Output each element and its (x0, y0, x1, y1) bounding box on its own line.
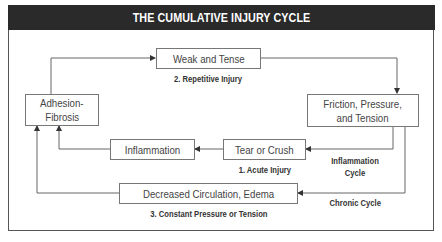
label-repetitive-injury: 2. Repetitive Injury (156, 73, 261, 85)
node-adhesion-line2: Fibrosis (45, 110, 79, 124)
label-inflammation-cycle-line1: Inflammation (331, 155, 379, 167)
label-constant-pressure-text: 3. Constant Pressure or Tension (150, 208, 267, 220)
label-chronic-cycle-text: Chronic Cycle (329, 197, 380, 209)
node-inflammation: Inflammation (110, 139, 195, 160)
label-acute-injury: 1. Acute Injury (223, 164, 306, 176)
label-constant-pressure: 3. Constant Pressure or Tension (119, 208, 298, 220)
label-repetitive-injury-text: 2. Repetitive Injury (174, 73, 242, 85)
node-friction-line2: and Tension (337, 111, 389, 125)
node-weak-and-tense: Weak and Tense (156, 48, 261, 69)
label-inflammation-cycle: Inflammation Cycle (320, 155, 390, 179)
node-adhesion-fibrosis: Adhesion- Fibrosis (25, 94, 99, 126)
label-inflammation-cycle-line2: Cycle (345, 167, 365, 179)
node-weak-and-tense-label: Weak and Tense (173, 52, 245, 66)
node-tear-or-crush-label: Tear or Crush (235, 143, 294, 157)
node-decreased-circulation: Decreased Circulation, Edema (119, 183, 298, 204)
node-friction-pressure-tension: Friction, Pressure, and Tension (307, 94, 419, 127)
node-decreased-circulation-label: Decreased Circulation, Edema (143, 187, 274, 201)
label-acute-injury-text: 1. Acute Injury (238, 164, 290, 176)
node-inflammation-label: Inflammation (125, 143, 180, 157)
node-tear-or-crush: Tear or Crush (223, 139, 306, 160)
node-friction-line1: Friction, Pressure, (324, 97, 403, 111)
label-chronic-cycle: Chronic Cycle (320, 197, 390, 209)
node-adhesion-line1: Adhesion- (40, 96, 84, 110)
